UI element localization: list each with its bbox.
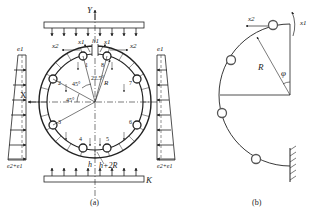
x2-left-label: x2 bbox=[51, 42, 59, 50]
top-load bbox=[44, 22, 144, 36]
node-number-3: 3 bbox=[58, 119, 61, 125]
radius-label-a: R bbox=[103, 79, 109, 87]
axis-y-label: Y bbox=[87, 5, 93, 15]
left-lateral-load bbox=[8, 55, 26, 160]
bottom-h-label: h bbox=[88, 160, 92, 169]
x2-label-b: x2 bbox=[247, 15, 255, 23]
bottom-load bbox=[44, 168, 144, 182]
caption-b: (b) bbox=[252, 198, 262, 207]
left-load-bottom-label: e2+e1 bbox=[7, 163, 22, 169]
structural-diagram: Y X K e1 e2+e1 e1 e2+e1 h1 x1 x1 x2 x2 4… bbox=[0, 0, 313, 213]
node-number-2: 2 bbox=[58, 80, 61, 86]
figure-b bbox=[218, 12, 297, 182]
bottom-h2r-label: h+2R bbox=[99, 161, 117, 170]
node-number-7: 7 bbox=[129, 80, 132, 86]
angle-22-5: 22.5° bbox=[91, 75, 105, 81]
x1-left-label: x1 bbox=[77, 38, 85, 46]
right-lateral-load bbox=[157, 55, 175, 160]
arc-nodes bbox=[218, 21, 278, 164]
right-load-top-label: e1 bbox=[157, 45, 164, 53]
right-load-bottom-label: e2+e1 bbox=[157, 163, 172, 169]
radius-label-b: R bbox=[257, 62, 264, 72]
angle-45-upper: 45° bbox=[72, 81, 81, 87]
x1-right-label: x1 bbox=[103, 38, 111, 46]
node-number-4: 4 bbox=[79, 136, 82, 142]
fixed-support-hatching bbox=[290, 146, 296, 180]
axis-x-label: X bbox=[20, 90, 27, 100]
figure-b-labels: x2 x1 R φ (b) bbox=[247, 15, 307, 207]
gap-label: h1 bbox=[92, 37, 99, 45]
x1-label-b: x1 bbox=[299, 19, 307, 27]
node-number-6: 6 bbox=[129, 119, 132, 125]
node-number-5: 5 bbox=[106, 136, 109, 142]
x2-right-label: x2 bbox=[129, 42, 137, 50]
figure-a-labels: Y X K e1 e2+e1 e1 e2+e1 h1 x1 x1 x2 x2 4… bbox=[7, 5, 172, 207]
node-number-1: 1 bbox=[85, 62, 88, 68]
node-number-8: 8 bbox=[101, 62, 104, 68]
bottom-load-label: K bbox=[145, 175, 153, 185]
caption-a: (a) bbox=[90, 198, 99, 207]
left-load-top-label: e1 bbox=[17, 45, 24, 53]
angle-phi-label: φ bbox=[281, 68, 286, 78]
angle-45-lower: 45° bbox=[66, 97, 75, 103]
